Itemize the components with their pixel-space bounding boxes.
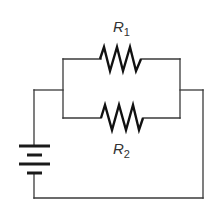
resistor-r1-label: R1 <box>113 19 130 34</box>
resistor-r2-subscript: 2 <box>124 148 130 160</box>
resistor-r1-subscript: 1 <box>124 26 130 38</box>
resistor-r2-letter: R <box>113 140 124 157</box>
circuit-diagram <box>0 0 212 216</box>
top-branch <box>63 47 180 71</box>
battery-icon <box>19 146 50 173</box>
resistor-r1-zigzag <box>100 47 141 71</box>
resistor-r2-zigzag <box>101 105 143 130</box>
resistor-r2-label: R2 <box>113 141 130 156</box>
bottom-branch <box>63 105 180 130</box>
resistor-r1-letter: R <box>113 18 124 35</box>
